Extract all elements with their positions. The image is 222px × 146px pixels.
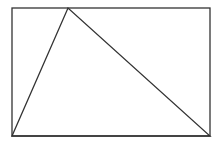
inscribed-triangle bbox=[12, 8, 210, 136]
geometry-diagram bbox=[0, 0, 222, 146]
rectangle bbox=[12, 8, 210, 136]
